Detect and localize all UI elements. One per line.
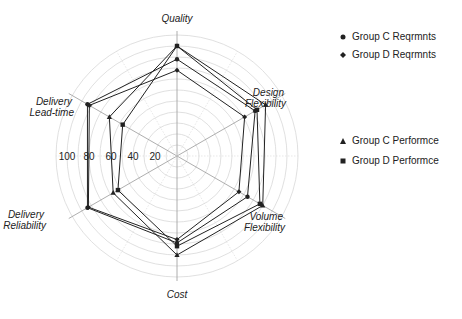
axis-label: Cost [167, 289, 189, 300]
circle-marker-icon [245, 195, 249, 199]
legend-label: Group D Performce [352, 155, 439, 166]
axis-spoke [117, 51, 178, 156]
legend-label: Group C Reqrmnts [352, 31, 436, 42]
axis-label: Delivery [36, 96, 73, 107]
legend-item-group-c-performce: Group C Performce [340, 135, 439, 146]
legend-item-group-d-performce: Group D Performce [340, 155, 439, 166]
legend-item-group-c-reqrmnts: Group C Reqrmnts [340, 31, 436, 42]
series-line [118, 46, 260, 246]
legend-label: Group C Performce [352, 135, 439, 146]
square-marker-icon [258, 202, 262, 206]
axis-label: Quality [161, 13, 193, 24]
axis-label: Flexibility [244, 222, 286, 233]
triangle-marker-icon [111, 190, 116, 195]
square-marker-icon [121, 122, 125, 126]
radial-tick-label: 100 [59, 151, 76, 162]
radial-tick-label: 20 [149, 151, 161, 162]
axis-spoke [177, 51, 238, 156]
axis-spoke [177, 156, 238, 261]
axis-label: Lead-time [30, 107, 75, 118]
square-marker-icon [175, 244, 179, 248]
radial-tick-label: 40 [127, 151, 139, 162]
axis-spoke [117, 156, 178, 261]
axis-label: Reliability [3, 220, 47, 231]
square-marker-icon [340, 158, 346, 164]
circle-marker-icon [175, 57, 179, 61]
triangle-marker-icon [340, 138, 346, 144]
axis-label: Volume [249, 211, 283, 222]
circle-marker-icon [340, 34, 346, 40]
axis-label: Delivery [8, 209, 45, 220]
square-marker-icon [116, 188, 120, 192]
axis-label: Design [253, 87, 285, 98]
square-marker-icon [255, 108, 259, 112]
square-marker-icon [175, 44, 179, 48]
legend-item-group-d-reqrmnts: Group D Reqrmnts [340, 49, 436, 60]
legend-label: Group D Reqrmnts [352, 49, 436, 60]
diamond-marker-icon [340, 52, 346, 58]
